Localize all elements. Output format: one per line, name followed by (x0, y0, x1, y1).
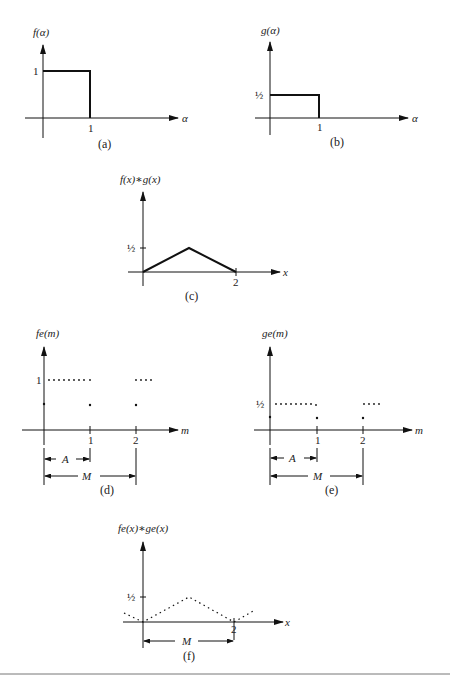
panel-b: g(α) ½ 1 α (b) (255, 24, 418, 149)
xtick-d-2: 2 (133, 434, 139, 446)
caption-f: (f) (183, 649, 195, 663)
xtick-e-2: 2 (360, 434, 366, 446)
caption-d: (d) (100, 483, 114, 497)
span-m-f: M (181, 635, 192, 647)
xtick-e-1: 1 (315, 434, 321, 446)
caption-c: (c) (185, 289, 198, 303)
panel-d: fe(m) 1 1 2 m A M (d) (22, 327, 189, 497)
ytick-d: 1 (36, 374, 42, 386)
caption-a: (a) (98, 137, 111, 151)
xtick-b: 1 (317, 121, 323, 133)
xtick-d-1: 1 (88, 434, 94, 446)
ytick-f: ½ (127, 591, 135, 603)
xlabel-d: m (181, 424, 189, 436)
ylabel-a: f(α) (33, 26, 49, 39)
panel-e: ge(m) ½ 1 2 m A M (e) (254, 327, 423, 497)
xtick-a: 1 (88, 122, 94, 134)
figure-canvas: f(α) 1 1 α (a) g(α) ½ 1 α (b) f(x)∗g(x) … (0, 0, 450, 684)
ytick-c: ½ (127, 242, 135, 254)
span-m-d: M (81, 470, 92, 482)
caption-e: (e) (325, 483, 338, 497)
ytick-a: 1 (33, 65, 39, 77)
xtick-c: 2 (233, 276, 239, 288)
span-a-d: A (61, 453, 69, 465)
panel-f: fe(x)∗ge(x) ½ 2 x M (f) (118, 522, 290, 663)
span-m-e: M (312, 470, 323, 482)
xlabel-f: x (284, 616, 290, 628)
panel-c: f(x)∗g(x) ½ 2 x (c) (120, 173, 288, 303)
ytick-b: ½ (255, 89, 263, 101)
xlabel-e: m (415, 424, 423, 436)
ytick-e: ½ (256, 398, 264, 410)
ylabel-d: fe(m) (36, 327, 60, 340)
ylabel-c: f(x)∗g(x) (120, 173, 161, 186)
caption-b: (b) (330, 135, 344, 149)
xtick-f: 2 (231, 623, 237, 635)
xlabel-b: α (412, 112, 418, 124)
span-a-e: A (288, 452, 296, 464)
ylabel-e: ge(m) (262, 327, 288, 340)
ylabel-b: g(α) (261, 24, 280, 37)
panel-a: f(α) 1 1 α (a) (25, 26, 188, 151)
ylabel-f: fe(x)∗ge(x) (118, 522, 169, 535)
xlabel-c: x (282, 266, 288, 278)
xlabel-a: α (182, 112, 188, 124)
